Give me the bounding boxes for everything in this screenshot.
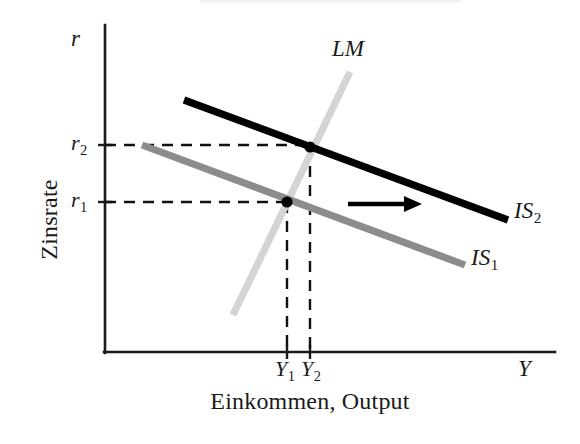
x-tick-label-Y1: Y1 (275, 356, 295, 385)
curve-label-is1-sub: 1 (490, 256, 498, 273)
dashed-guides (105, 145, 311, 351)
y-tick-label-r1-sub: 1 (80, 199, 88, 215)
curve-label-is2-sub: 2 (533, 209, 541, 226)
x-tick-label-Y1-sub: 1 (287, 368, 295, 384)
curve-is2 (184, 100, 508, 220)
equilibrium-point-1 (281, 196, 292, 207)
curve-label-lm-base: LM (332, 36, 364, 61)
curve-label-is1: IS1 (471, 245, 498, 274)
shift-arrow-head (404, 196, 422, 212)
y-tick-label-r2-base: r (71, 130, 80, 155)
curve-label-is1-base: IS (471, 245, 490, 270)
y-tick-label-r2-sub: 2 (80, 142, 88, 158)
equilibrium-point-2 (304, 141, 315, 152)
shift-arrow (348, 196, 422, 212)
x-tick-label-Y2: Y2 (301, 356, 321, 385)
curve-label-is2-base: IS (514, 198, 533, 223)
y-tick-label-r1-base: r (71, 187, 80, 212)
y-axis-caption: Zinsrate (36, 125, 63, 315)
is-lm-figure: r Y Zinsrate Einkommen, Output r2 r1 Y1 … (0, 0, 580, 444)
y-tick-label-r2: r2 (71, 130, 87, 159)
y-tick-label-r1: r1 (71, 187, 87, 216)
tick-marks (98, 145, 310, 359)
axis-lines (104, 25, 555, 353)
x-axis-symbol: Y (518, 356, 531, 382)
x-axis-caption: Einkommen, Output (150, 388, 470, 415)
curve-label-is2: IS2 (514, 198, 541, 227)
curve-lm (233, 72, 350, 315)
curve-label-lm: LM (332, 36, 364, 62)
y-axis-symbol: r (71, 26, 80, 52)
x-tick-label-Y2-base: Y (301, 356, 313, 381)
x-tick-label-Y1-base: Y (275, 356, 287, 381)
x-tick-label-Y2-sub: 2 (313, 368, 321, 384)
